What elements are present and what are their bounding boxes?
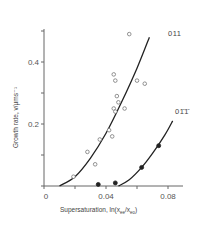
x-tick-label: 0 — [44, 192, 49, 201]
open-data-point — [135, 79, 139, 83]
chart: 0.20.400.040.08 011 01̄1̄ Supersaturatio… — [0, 0, 212, 228]
x-tick-label: 0.04 — [98, 192, 114, 201]
curve-label-011: 011 — [168, 29, 181, 38]
open-data-point — [110, 135, 114, 139]
y-tick-label: 0.4 — [28, 58, 40, 67]
open-data-point — [98, 138, 102, 142]
filled-data-point — [113, 181, 117, 185]
fit-curve-0 — [60, 37, 150, 186]
curve-label-0-1bar-1bar: 01̄1̄ — [175, 107, 190, 116]
open-data-point — [114, 110, 118, 114]
fit-curve-1 — [118, 121, 172, 186]
open-data-point — [143, 82, 147, 86]
filled-data-point — [96, 182, 100, 186]
open-data-point — [107, 128, 111, 132]
open-data-point — [72, 175, 76, 179]
data-points — [72, 32, 161, 186]
filled-data-point — [157, 144, 161, 148]
y-tick-label: 0.2 — [28, 120, 40, 129]
open-data-point — [115, 94, 119, 98]
open-data-point — [127, 32, 131, 36]
filled-data-point — [140, 165, 144, 169]
x-tick-label: 0.08 — [160, 192, 176, 201]
axes: 0.20.400.040.08 — [28, 29, 183, 201]
open-data-point — [114, 79, 118, 83]
x-axis-title: Supersaturation, ln(xee/xeo) — [60, 206, 137, 215]
open-data-point — [117, 101, 121, 105]
open-data-point — [86, 150, 90, 154]
y-axis-title: Growth rate, v/µms⁻¹ — [12, 86, 20, 148]
open-data-point — [112, 73, 116, 77]
open-data-point — [123, 107, 127, 111]
open-data-point — [93, 163, 97, 167]
